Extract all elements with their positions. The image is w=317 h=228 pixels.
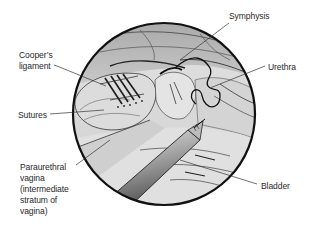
- label-coopers-ligament-line1: Cooper’s: [19, 49, 53, 60]
- label-coopers-ligament-line2: ligament: [19, 60, 51, 71]
- label-sutures: Sutures: [18, 109, 47, 120]
- label-paraurethral-line1: Paraurethral: [20, 161, 66, 172]
- label-bladder: Bladder: [261, 180, 290, 191]
- label-urethra: Urethra: [268, 61, 296, 72]
- label-paraurethral-line5: vagina): [20, 205, 47, 216]
- label-paraurethral-line4: stratum of: [20, 194, 57, 205]
- surgical-illustration: Symphysis Cooper’s ligament Urethra Sutu…: [0, 0, 317, 228]
- label-paraurethral-line2: vagina: [20, 172, 45, 183]
- operative-field: [70, 20, 260, 210]
- label-paraurethral-line3: (intermediate: [20, 183, 69, 194]
- label-symphysis: Symphysis: [229, 10, 270, 21]
